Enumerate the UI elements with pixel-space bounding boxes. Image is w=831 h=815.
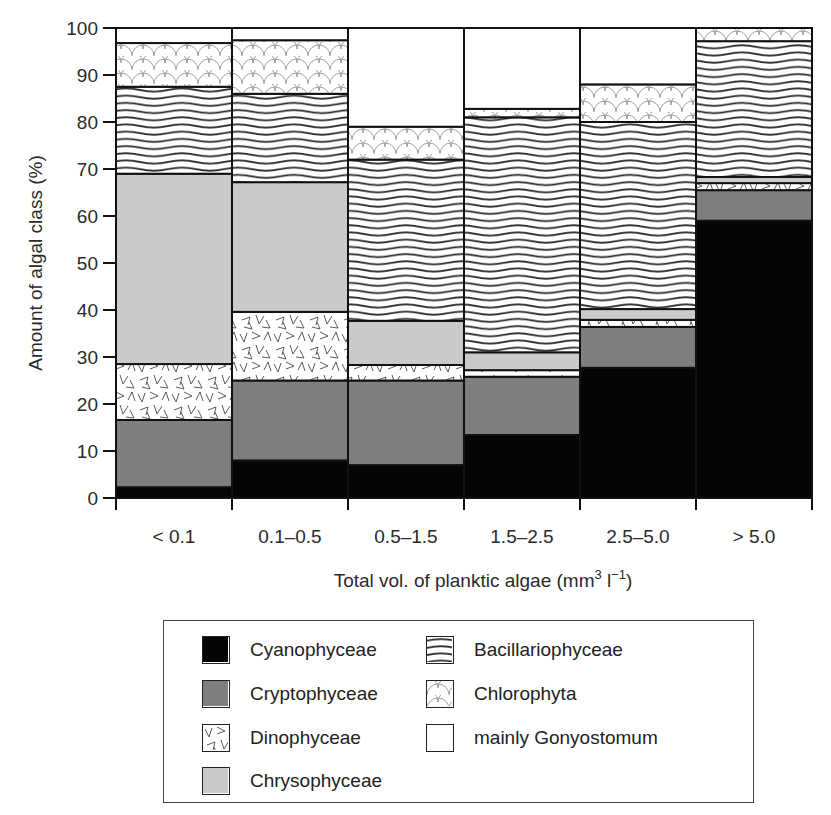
bar-segment-dinophyceae [116,364,232,420]
swatch-v-marks-icon [202,724,230,752]
bar-segment-chlorophyta [696,28,812,41]
bar-segment-chlorophyta [232,40,348,94]
y-tick-label: 70 [77,159,98,180]
bar-segment-cyanophyceae [696,221,812,498]
bar-segment-dinophyceae [580,320,696,327]
legend-item-bacillariophyceae: Bacillariophyceae [426,635,623,665]
bar-segment-dinophyceae [348,365,464,381]
bars-group [116,28,812,498]
y-tick-label: 20 [77,394,98,415]
y-tick-label: 60 [77,206,98,227]
bar-segment-bacillariophyceae [116,87,232,174]
bar-segment-cryptophyceae [116,420,232,487]
y-axis-title: Amount of algal class (%) [25,155,46,370]
legend-label: Chrysophyceae [250,770,382,792]
bar-segment-cyanophyceae [348,465,464,498]
bar-segment-cryptophyceae [696,190,812,221]
legend-item-gonyostomum: mainly Gonyostomum [426,723,658,753]
bar-segment-cyanophyceae [580,368,696,498]
legend-label: Cyanophyceae [250,639,377,661]
y-tick-label: 0 [87,488,98,509]
legend-item-cryptophyceae: Cryptophyceae [202,679,378,709]
bar-stack [696,28,812,498]
bar-segment-cryptophyceae [464,377,580,435]
bar-segment-bacillariophyceae [232,94,348,182]
bar-segment-chrysophyceae [116,174,232,364]
bar-stack [580,28,696,498]
x-axis-title: Total vol. of planktic algae (mm3 l−1) [334,567,633,591]
bar-stack [348,28,464,498]
bar-segment-cyanophyceae [232,460,348,498]
swatch-blank-icon [426,724,454,752]
legend-label: Bacillariophyceae [474,639,623,661]
bar-segment-mainly-gonyostomum [464,28,580,109]
bar-segment-chrysophyceae [464,352,580,370]
y-tick-label: 10 [77,441,98,462]
swatch-scallops-icon [426,680,454,708]
bar-segment-dinophyceae [696,183,812,190]
legend-label: mainly Gonyostomum [474,727,658,749]
y-tick-label: 50 [77,253,98,274]
stacked-bar-chart: 0102030405060708090100 < 0.10.1–0.50.5–1… [0,0,831,615]
x-category-label: 0.1–0.5 [258,526,321,547]
swatch-solid-black-icon [202,636,230,664]
bar-segment-bacillariophyceae [580,122,696,309]
bar-stack [116,28,232,498]
x-ticks: < 0.10.1–0.50.5–1.51.5–2.52.5–5.0> 5.0 [116,498,812,547]
y-tick-label: 90 [77,65,98,86]
bar-segment-chlorophyta [464,109,580,117]
bar-segment-chrysophyceae [580,309,696,320]
bar-segment-mainly-gonyostomum [348,28,464,127]
swatch-solid-lightgray-icon [202,767,230,795]
legend-item-dinophyceae: Dinophyceae [202,723,361,753]
bar-segment-bacillariophyceae [696,41,812,177]
bar-segment-chlorophyta [580,84,696,122]
swatch-wavy-lines-icon [426,636,454,664]
legend-label: Chlorophyta [474,683,576,705]
bar-segment-mainly-gonyostomum [232,28,348,40]
x-category-label: 0.5–1.5 [374,526,437,547]
x-category-label: 1.5–2.5 [490,526,553,547]
legend: Cyanophyceae Cryptophyceae Dinophyceae C… [163,620,754,803]
bar-segment-bacillariophyceae [348,160,464,321]
bar-segment-cryptophyceae [348,381,464,466]
legend-item-chrysophyceae: Chrysophyceae [202,766,382,796]
bar-segment-mainly-gonyostomum [116,28,232,43]
bar-segment-chlorophyta [116,43,232,87]
bar-stack [232,28,348,498]
bar-segment-mainly-gonyostomum [580,28,696,84]
bar-segment-cyanophyceae [116,487,232,498]
x-category-label: < 0.1 [153,526,196,547]
bar-stack [464,28,580,498]
bar-segment-chrysophyceae [232,182,348,312]
y-tick-label: 100 [66,18,98,39]
legend-label: Dinophyceae [250,727,361,749]
bar-segment-cryptophyceae [580,327,696,368]
bar-segment-dinophyceae [232,312,348,381]
legend-label: Cryptophyceae [250,683,378,705]
x-category-label: 2.5–5.0 [606,526,669,547]
bar-segment-cryptophyceae [232,381,348,461]
y-ticks: 0102030405060708090100 [66,18,116,509]
swatch-solid-darkgray-icon [202,680,230,708]
legend-item-chlorophyta: Chlorophyta [426,679,576,709]
y-tick-label: 40 [77,300,98,321]
bar-segment-cyanophyceae [464,435,580,498]
bar-segment-chrysophyceae [348,321,464,365]
bar-segment-chlorophyta [348,127,464,160]
x-category-label: > 5.0 [733,526,776,547]
y-tick-label: 80 [77,112,98,133]
bar-segment-bacillariophyceae [464,117,580,352]
legend-item-cyanophyceae: Cyanophyceae [202,635,377,665]
y-tick-label: 30 [77,347,98,368]
